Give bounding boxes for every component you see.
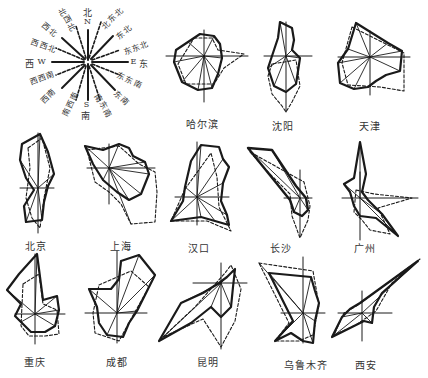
wind-rose-shanghai: [85, 144, 157, 224]
city-label-guangzhou: 广州: [354, 240, 376, 255]
compass-label-n-en: N: [84, 17, 92, 26]
wind-rose-shenyang: [264, 22, 312, 112]
wind-rose-diagram: [0, 0, 428, 378]
wind-rose-chengdu: [85, 251, 155, 343]
city-label-shenyang: 沈阳: [272, 118, 294, 133]
compass-label-e: 东: [139, 57, 149, 70]
wind-rose-beijing: [20, 133, 54, 233]
city-label-shanghai: 上海: [110, 238, 132, 253]
wind-rose-changsha: [248, 148, 312, 238]
wind-rose-kunming: [159, 263, 247, 349]
wind-rose-chongqing: [7, 254, 65, 344]
city-label-harbin: 哈尔滨: [186, 116, 219, 131]
city-label-beijing: 北京: [25, 238, 47, 253]
wind-rose-guangzhou: [342, 142, 418, 240]
wind-rose-xian: [332, 259, 420, 341]
city-label-tianjin: 天津: [359, 118, 381, 133]
city-label-kunming: 昆明: [197, 354, 219, 369]
wind-rose-urumqi: [259, 257, 325, 343]
wind-rose-harbin: [166, 30, 248, 102]
city-label-xian: 西安: [355, 357, 377, 372]
compass-label-w: 西: [25, 57, 35, 70]
wind-rose-hankou: [171, 142, 231, 231]
city-label-hankou: 汉口: [188, 240, 210, 255]
wind-rose-tianjin: [338, 23, 410, 95]
city-label-chongqing: 重庆: [24, 354, 46, 369]
compass-label-s: 南: [81, 109, 91, 122]
city-label-urumqi: 乌鲁木齐: [284, 357, 328, 372]
compass-label-w-en: W: [37, 57, 46, 66]
city-label-chengdu: 成都: [106, 354, 128, 369]
city-label-changsha: 长沙: [270, 240, 292, 255]
compass-label-s-en: S: [84, 100, 90, 109]
compass-label-e-en: E: [131, 57, 138, 66]
